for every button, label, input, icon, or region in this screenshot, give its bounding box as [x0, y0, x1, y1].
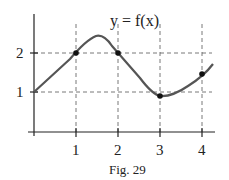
x-tick-label-3: 3 [156, 143, 164, 158]
axes [28, 14, 215, 137]
figure-caption: Fig. 29 [109, 162, 146, 177]
grid-lines [34, 24, 212, 132]
x-tick-label-4: 4 [198, 143, 206, 158]
x-tick-label-2: 2 [114, 143, 122, 158]
x-tick-label-1: 1 [72, 143, 80, 158]
marked-points [73, 50, 205, 99]
y-tick-label-2: 2 [16, 46, 24, 61]
y-tick-label-1: 1 [16, 85, 24, 100]
function-curve [34, 36, 213, 96]
chart-title: y = f(x) [110, 13, 159, 28]
